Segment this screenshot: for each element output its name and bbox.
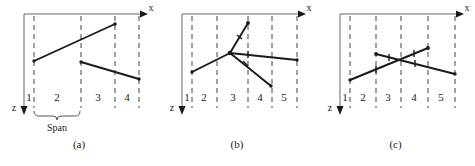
region-number: 3 — [385, 91, 391, 103]
x-axis-label: x — [465, 2, 470, 13]
region-number: 5 — [281, 91, 287, 103]
ray-segment-upper-right — [230, 23, 248, 53]
region-number: 3 — [95, 91, 101, 103]
region-number: 2 — [360, 91, 366, 103]
z-axis-arrowhead — [179, 106, 186, 115]
span-brace — [34, 111, 80, 120]
z-axis-label: z — [170, 102, 175, 113]
interface-segment-ascending — [34, 24, 115, 61]
x-axis-label: x — [149, 2, 154, 13]
interface-segment-descending — [81, 62, 139, 79]
z-axis-label: z — [12, 102, 17, 113]
panel-caption: (b) — [158, 138, 316, 150]
interface-node — [246, 21, 250, 25]
interface-node — [113, 22, 116, 25]
interface-node — [453, 72, 456, 75]
panel-c: x z 1 2 3 4 — [316, 0, 475, 166]
z-axis-label: z — [328, 102, 333, 113]
interface-node — [190, 70, 193, 73]
x-axis-arrowhead — [140, 11, 148, 18]
x-axis-arrowhead — [298, 11, 306, 18]
interface-node — [295, 58, 298, 61]
span-label: Span — [47, 122, 67, 133]
interface-node — [137, 77, 140, 80]
seismic-span-figure: x z 1 2 3 4 Span — [0, 0, 475, 166]
ray-segment-lower-right — [230, 53, 271, 86]
interface-node — [426, 46, 430, 50]
panel-c-diagram: x z 1 2 3 4 — [316, 0, 475, 140]
ray-segment-horizontal — [230, 53, 297, 60]
interface-node — [374, 52, 378, 56]
region-number: 4 — [411, 91, 417, 103]
interface-node — [79, 60, 82, 63]
region-number: 2 — [54, 91, 60, 103]
x-axis-arrowhead — [456, 11, 464, 18]
x-axis-label: x — [307, 2, 312, 13]
interface-node — [348, 78, 351, 81]
panel-a-diagram: x z 1 2 3 4 Span — [0, 0, 158, 140]
region-number: 5 — [438, 91, 444, 103]
panel-caption: (c) — [316, 138, 475, 150]
region-number: 1 — [184, 91, 190, 103]
z-axis-arrowhead — [21, 106, 28, 115]
panel-b-diagram: x z — [158, 0, 316, 140]
region-number: 2 — [201, 91, 207, 103]
panel-a: x z 1 2 3 4 Span — [0, 0, 158, 166]
ray-segment-lower-left — [192, 53, 230, 72]
region-number: 3 — [230, 91, 236, 103]
region-number: 4 — [124, 91, 130, 103]
panel-b: x z — [158, 0, 316, 166]
convergence-node — [228, 51, 233, 56]
region-number: 4 — [257, 91, 263, 103]
interface-node — [269, 84, 272, 87]
region-number: 1 — [342, 91, 348, 103]
region-number: 1 — [26, 91, 32, 103]
interface-node — [32, 59, 35, 62]
panel-caption: (a) — [0, 138, 158, 150]
z-axis-arrowhead — [337, 106, 344, 115]
